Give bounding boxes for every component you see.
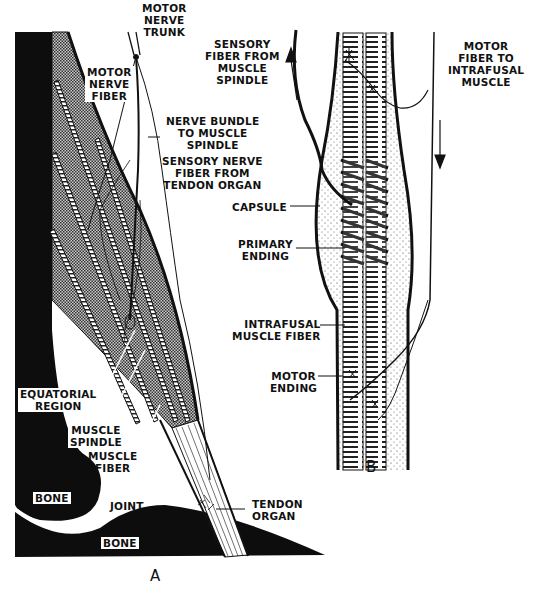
label-intrafusal-muscle-fiber: INTRAFUSAL MUSCLE FIBER [232, 318, 321, 342]
label-bone-lower: BONE [101, 537, 139, 549]
label-sensory-nerve-fiber-tendon: SENSORY NERVE FIBER FROM TENDON ORGAN [162, 155, 263, 191]
panel-label-b: B [366, 458, 376, 476]
label-nerve-bundle: NERVE BUNDLE TO MUSCLE SPINDLE [166, 115, 259, 151]
panel-label-a: A [150, 567, 160, 585]
label-equatorial-region: EQUATORIAL REGION [18, 388, 99, 412]
panel-b-drawing [286, 30, 445, 470]
label-motor-fiber-intrafusal: MOTOR FIBER TO INTRAFUSAL MUSCLE [448, 40, 524, 88]
label-capsule: CAPSULE [232, 201, 287, 213]
label-bone-upper: BONE [33, 492, 71, 504]
label-muscle-spindle: MUSCLE SPINDLE [68, 424, 124, 448]
panel-a-drawing [15, 32, 325, 557]
label-muscle-fiber: MUSCLE FIBER [88, 450, 137, 474]
label-motor-nerve-fiber: MOTOR NERVE FIBER [85, 66, 134, 102]
label-motor-nerve-trunk: MOTOR NERVE TRUNK [142, 2, 187, 38]
label-motor-ending: MOTOR ENDING [270, 370, 317, 394]
label-joint: JOINT [110, 500, 144, 512]
label-primary-ending: PRIMARY ENDING [238, 238, 293, 262]
label-sensory-fiber-spindle: SENSORY FIBER FROM MUSCLE SPINDLE [205, 38, 280, 86]
label-tendon-organ: TENDON ORGAN [252, 498, 303, 522]
